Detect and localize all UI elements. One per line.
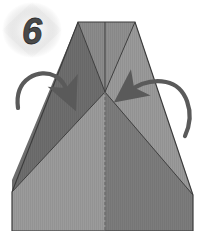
origami-step-figure: 6 bbox=[0, 0, 204, 231]
step-number: 6 bbox=[22, 11, 43, 52]
origami-diagram-canvas: 6 bbox=[0, 0, 204, 231]
